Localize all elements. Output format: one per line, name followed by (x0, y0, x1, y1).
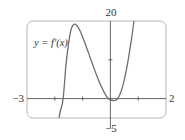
x-max-label: 2 (169, 92, 175, 104)
chart-svg: 20 −5 −3 2 y = f′(x) (0, 0, 185, 140)
curve-f-prime (59, 21, 134, 118)
y-max-label: 20 (106, 6, 118, 18)
y-min-label: −5 (105, 122, 117, 134)
x-min-label: −3 (12, 92, 24, 104)
curve-label: y = f′(x) (33, 37, 68, 49)
plot-frame (27, 21, 166, 118)
